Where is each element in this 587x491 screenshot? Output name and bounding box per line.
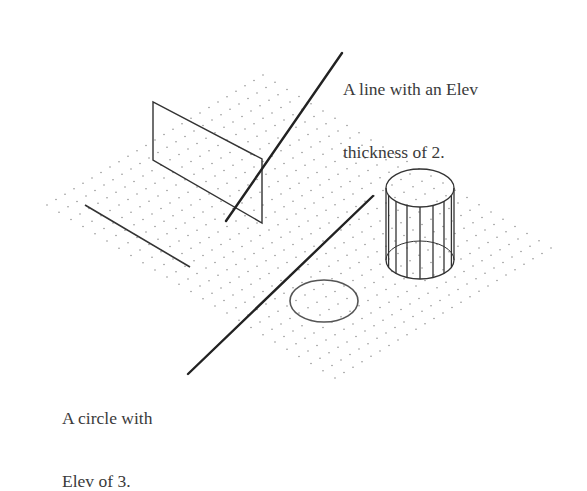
annotation-circle-elev: A circle with Elev of 3. bbox=[62, 366, 152, 491]
annotation-line-text-1: A line with an Elev bbox=[343, 79, 478, 100]
annotation-line-elev-thickness: A line with an Elev thickness of 2. bbox=[343, 37, 478, 184]
annotation-line-text-2: thickness of 2. bbox=[343, 142, 478, 163]
annotation-circle-text-1: A circle with bbox=[62, 408, 152, 429]
annotation-circle-text-2: Elev of 3. bbox=[62, 471, 152, 491]
